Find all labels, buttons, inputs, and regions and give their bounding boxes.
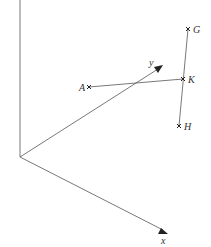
diagram-canvas: y x A K G H xyxy=(0,0,211,247)
segment-g-h xyxy=(179,29,188,126)
point-a: A xyxy=(78,82,91,93)
x-axis xyxy=(20,157,163,230)
segment-a-k xyxy=(89,79,183,87)
y-axis-arrow-icon xyxy=(154,65,163,73)
x-axis-label: x xyxy=(160,235,166,246)
y-axis xyxy=(20,69,158,157)
y-axis-label: y xyxy=(148,57,154,68)
point-g-label: G xyxy=(193,24,200,35)
point-a-label: A xyxy=(78,82,86,93)
point-h-label: H xyxy=(183,121,192,132)
x-axis-arrow-icon xyxy=(158,228,168,234)
point-k-label: K xyxy=(187,74,196,85)
point-g: G xyxy=(186,24,200,35)
